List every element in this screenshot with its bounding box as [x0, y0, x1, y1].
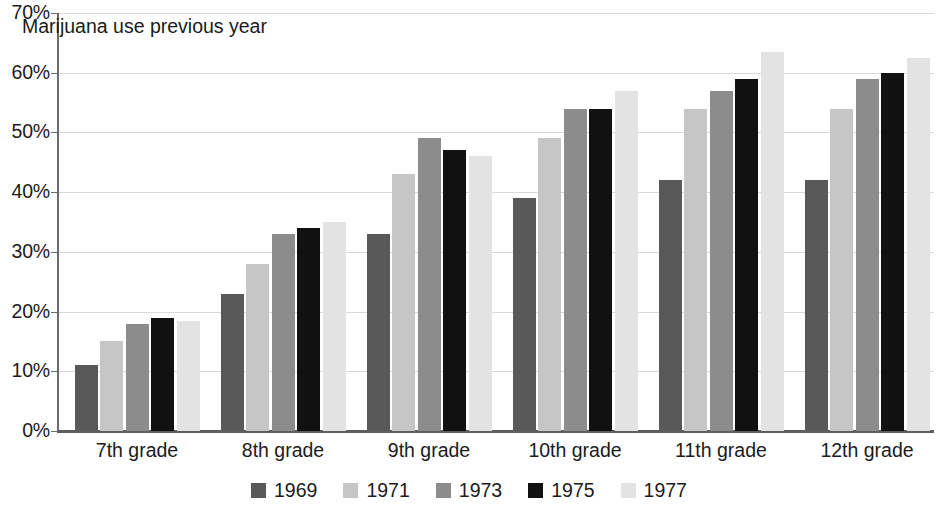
bar	[443, 150, 466, 431]
bar	[684, 109, 707, 431]
bar	[564, 109, 587, 431]
bar-group	[58, 13, 204, 431]
y-axis-tick-mark	[51, 252, 58, 253]
legend-label: 1977	[644, 481, 687, 501]
bar	[805, 180, 828, 431]
bar	[538, 138, 561, 431]
bar	[221, 294, 244, 431]
x-axis-tick-label: 8th grade	[242, 440, 324, 461]
bar	[469, 156, 492, 431]
bar-group	[642, 13, 788, 431]
bar	[392, 174, 415, 431]
bar	[830, 109, 853, 431]
bar	[710, 91, 733, 431]
bar	[323, 222, 346, 431]
legend-label: 1971	[366, 481, 409, 501]
legend-label: 1969	[274, 481, 317, 501]
legend-swatch-icon	[621, 483, 636, 498]
legend-item[interactable]: 1973	[436, 481, 502, 501]
y-axis-tick-mark	[51, 192, 58, 193]
x-axis-tick-label: 10th grade	[528, 440, 621, 461]
bar-group	[496, 13, 642, 431]
legend-label: 1973	[459, 481, 502, 501]
bar	[151, 318, 174, 431]
bar	[589, 109, 612, 431]
x-axis-tick-label: 7th grade	[96, 440, 178, 461]
bar	[126, 324, 149, 431]
y-axis-tick-mark	[51, 73, 58, 74]
y-axis-tick-mark	[51, 431, 58, 432]
y-axis-tick-label: 60%	[0, 63, 50, 83]
bar	[100, 341, 123, 431]
bars-layer	[58, 13, 934, 431]
y-axis-labels: 0%10%20%30%40%50%60%70%	[0, 0, 50, 512]
bar	[735, 79, 758, 431]
bar	[297, 228, 320, 431]
legend-item[interactable]: 1971	[343, 481, 409, 501]
bar	[177, 321, 200, 431]
bar	[418, 138, 441, 431]
bar	[659, 180, 682, 431]
bar	[615, 91, 638, 431]
y-axis-tick-mark	[51, 371, 58, 372]
legend-swatch-icon	[436, 483, 451, 498]
legend-label: 1975	[551, 481, 594, 501]
bar	[367, 234, 390, 431]
bar	[761, 52, 784, 431]
legend-item[interactable]: 1969	[251, 481, 317, 501]
y-axis-tick-label: 20%	[0, 302, 50, 322]
y-axis-tick-label: 10%	[0, 362, 50, 382]
x-axis-tick-label: 12th grade	[820, 440, 913, 461]
y-axis-tick-label: 40%	[0, 182, 50, 202]
bar-group	[788, 13, 934, 431]
y-axis-tick-mark	[51, 132, 58, 133]
legend: 19691971197319751977	[0, 481, 938, 501]
bar	[75, 365, 98, 431]
bar-group	[204, 13, 350, 431]
bar-group	[350, 13, 496, 431]
x-axis-tick-label: 9th grade	[388, 440, 470, 461]
legend-item[interactable]: 1977	[621, 481, 687, 501]
y-axis-tick-label: 0%	[0, 421, 50, 441]
legend-swatch-icon	[251, 483, 266, 498]
bar	[272, 234, 295, 431]
x-axis-tick-label: 11th grade	[675, 440, 767, 461]
legend-item[interactable]: 1975	[528, 481, 594, 501]
bar	[513, 198, 536, 431]
bar	[881, 73, 904, 431]
bar-chart: 0%10%20%30%40%50%60%70% Marijuana use pr…	[0, 0, 938, 512]
y-axis-tick-label: 30%	[0, 242, 50, 262]
y-axis-tick-mark	[51, 13, 58, 14]
legend-swatch-icon	[528, 483, 543, 498]
bar	[856, 79, 879, 431]
bar	[907, 58, 930, 431]
y-axis-tick-label: 50%	[0, 123, 50, 143]
bar	[246, 264, 269, 431]
x-axis-labels: 7th grade8th grade9th grade10th grade11t…	[58, 440, 934, 470]
legend-swatch-icon	[343, 483, 358, 498]
y-axis-tick-mark	[51, 312, 58, 313]
